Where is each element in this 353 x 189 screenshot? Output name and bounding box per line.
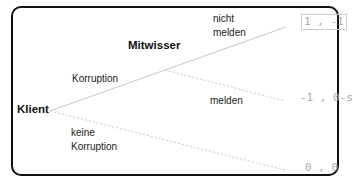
node-klient: Klient xyxy=(17,103,49,115)
edge-label-keine-korruption-2: Korruption xyxy=(71,139,117,154)
payoff-melden: -1 , 0-s xyxy=(300,91,353,104)
edge-label-nicht-melden-1: nicht xyxy=(213,11,234,26)
edge-label-keine-korruption-1: keine xyxy=(71,125,95,140)
edge-label-korruption: Korruption xyxy=(72,71,118,86)
payoff-keine-korruption: 0 , 0 xyxy=(305,161,338,174)
edge-label-melden: melden xyxy=(210,93,243,108)
payoff-nicht-melden: 1 , -1 xyxy=(301,14,347,30)
edge-label-nicht-melden-2: melden xyxy=(213,25,246,40)
node-mitwisser: Mitwisser xyxy=(128,39,180,51)
